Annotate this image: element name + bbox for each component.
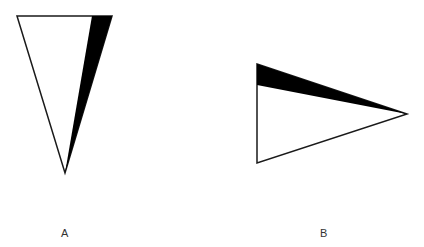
figure-label-b: B: [320, 228, 327, 239]
diagram-canvas: [0, 0, 424, 247]
triangle-a: [17, 16, 112, 173]
triangle-b: [257, 64, 407, 163]
figure-label-a: A: [61, 228, 68, 239]
